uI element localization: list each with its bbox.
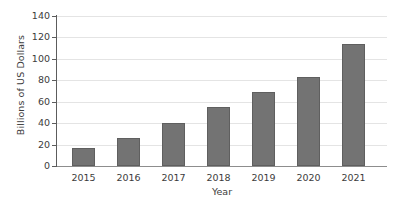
y-tick-label-140: 140 xyxy=(20,11,50,21)
bars-layer xyxy=(57,16,387,166)
x-tick-label-2018: 2018 xyxy=(197,172,241,183)
bar-2018[interactable] xyxy=(207,107,230,166)
y-tick-label-60: 60 xyxy=(20,97,50,107)
y-tick-label-40: 40 xyxy=(20,118,50,128)
x-tick-label-2020: 2020 xyxy=(287,172,331,183)
bar-2015[interactable] xyxy=(72,148,95,166)
x-axis-title: Year xyxy=(57,186,387,197)
y-tick-mark-120 xyxy=(52,37,56,38)
bar-2016[interactable] xyxy=(117,138,140,166)
x-tick-label-2021: 2021 xyxy=(332,172,376,183)
bar-2020[interactable] xyxy=(297,77,320,166)
bar-2019[interactable] xyxy=(252,92,275,166)
x-tick-label-2016: 2016 xyxy=(107,172,151,183)
x-tick-label-2019: 2019 xyxy=(242,172,286,183)
y-tick-mark-0 xyxy=(52,166,56,167)
y-tick-mark-60 xyxy=(52,102,56,103)
bar-2021[interactable] xyxy=(342,44,365,166)
y-tick-mark-100 xyxy=(52,59,56,60)
bar-chart: Billions of US Dollars 140 120 100 80 60… xyxy=(0,0,395,206)
y-tick-label-100: 100 xyxy=(20,54,50,64)
y-tick-label-80: 80 xyxy=(20,75,50,85)
x-tick-label-2015: 2015 xyxy=(62,172,106,183)
y-tick-mark-20 xyxy=(52,145,56,146)
bar-2017[interactable] xyxy=(162,123,185,166)
x-axis-baseline xyxy=(57,166,387,167)
y-tick-label-20: 20 xyxy=(20,140,50,150)
x-tick-label-2017: 2017 xyxy=(152,172,196,183)
y-tick-mark-80 xyxy=(52,80,56,81)
y-tick-mark-40 xyxy=(52,123,56,124)
y-tick-label-0: 0 xyxy=(20,161,50,171)
y-tick-mark-140 xyxy=(52,16,56,17)
y-tick-label-120: 120 xyxy=(20,32,50,42)
